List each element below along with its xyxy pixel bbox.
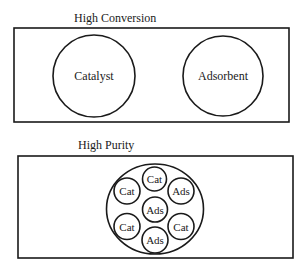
pellet-particle-lower-left-cat: Cat (114, 214, 140, 240)
ads-label: Ads (172, 185, 190, 197)
pellet-particle-upper-right-ads: Ads (168, 178, 194, 204)
pellet-particle-upper-left-cat: Cat (114, 178, 140, 204)
pellet-particle-top-cat: Cat (143, 167, 167, 191)
pellet-particle-bottom-ads: Ads (142, 227, 168, 253)
high-conversion-title: High Conversion (74, 11, 156, 25)
high-purity-title: High Purity (78, 138, 134, 152)
adsorbent-label: Adsorbent (198, 69, 249, 83)
cat-label: Cat (119, 185, 134, 197)
high-purity-panel: High Purity Cat Cat Ads Ads Cat Cat (18, 138, 293, 258)
cat-label: Cat (173, 221, 188, 233)
cat-label: Cat (147, 173, 162, 185)
ads-label: Ads (146, 234, 164, 246)
adsorbent-particle: Adsorbent (183, 36, 263, 116)
catalyst-label: Catalyst (74, 69, 114, 83)
high-conversion-panel: High Conversion Catalyst Adsorbent (14, 11, 289, 122)
cat-label: Cat (119, 221, 134, 233)
ads-label: Ads (146, 204, 164, 216)
catalyst-particle: Catalyst (53, 35, 135, 117)
diagram-canvas: High Conversion Catalyst Adsorbent High … (0, 0, 305, 268)
pellet-particle-lower-right-cat: Cat (168, 214, 194, 240)
pellet-particle-center-ads: Ads (143, 197, 168, 222)
